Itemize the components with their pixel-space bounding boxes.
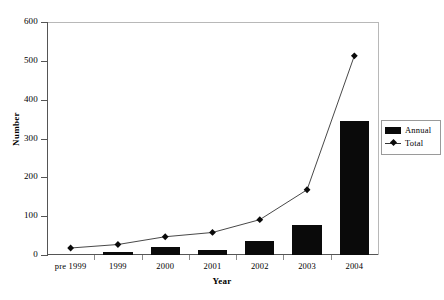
x-axis-tick <box>142 255 143 260</box>
legend-label-total: Total <box>405 139 423 148</box>
line-series-total <box>0 0 444 300</box>
x-axis-tick <box>283 255 284 260</box>
data-point-marker <box>209 229 216 236</box>
legend-bar-swatch-icon <box>385 127 401 134</box>
x-axis-title: Year <box>0 276 444 286</box>
chart-legend: Annual Total <box>381 120 441 155</box>
chart-figure: 0100200300400500600 Number pre 199919992… <box>0 0 444 300</box>
line-path <box>71 56 355 248</box>
legend-item-annual: Annual <box>385 124 440 137</box>
data-point-marker <box>256 216 263 223</box>
data-point-marker <box>351 52 358 59</box>
x-axis-tick-label: 2001 <box>189 261 236 271</box>
legend-label-annual: Annual <box>405 126 431 135</box>
x-axis-tick <box>236 255 237 260</box>
x-axis-tick-label: 2002 <box>236 261 283 271</box>
x-axis-tick-label: 2003 <box>283 261 330 271</box>
x-axis-tick <box>331 255 332 260</box>
data-point-marker <box>115 241 122 248</box>
data-point-marker <box>304 186 311 193</box>
x-axis-tick <box>94 255 95 260</box>
x-axis-tick-label: 2004 <box>331 261 378 271</box>
x-axis-tick-label: 1999 <box>94 261 141 271</box>
x-axis-tick-label: pre 1999 <box>47 261 94 271</box>
x-axis-tick <box>189 255 190 260</box>
x-axis-tick-label: 2000 <box>142 261 189 271</box>
data-point-marker <box>67 245 74 252</box>
legend-line-marker-swatch-icon <box>385 139 401 148</box>
legend-item-total: Total <box>385 137 440 150</box>
data-point-marker <box>162 233 169 240</box>
